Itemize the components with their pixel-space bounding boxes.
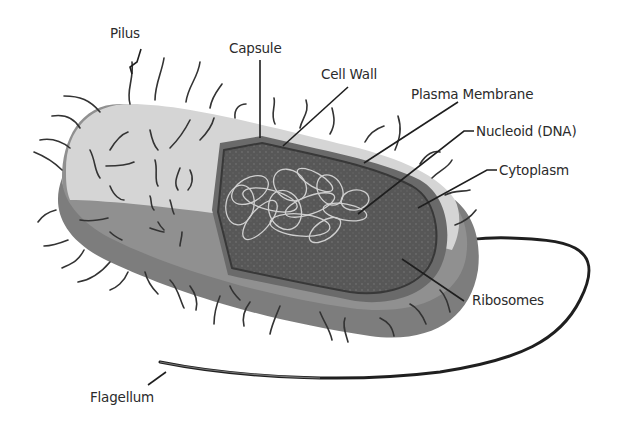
label-cell-wall: Cell Wall — [321, 68, 377, 82]
label-nucleoid: Nucleoid (DNA) — [476, 125, 576, 139]
label-flagellum: Flagellum — [90, 391, 154, 405]
label-cytoplasm: Cytoplasm — [499, 164, 569, 178]
label-pilus: Pilus — [110, 27, 140, 41]
bacterial-cell-diagram — [0, 0, 617, 428]
label-plasma-membrane: Plasma Membrane — [411, 88, 533, 102]
label-capsule: Capsule — [229, 42, 282, 56]
label-ribosomes: Ribosomes — [472, 294, 544, 308]
